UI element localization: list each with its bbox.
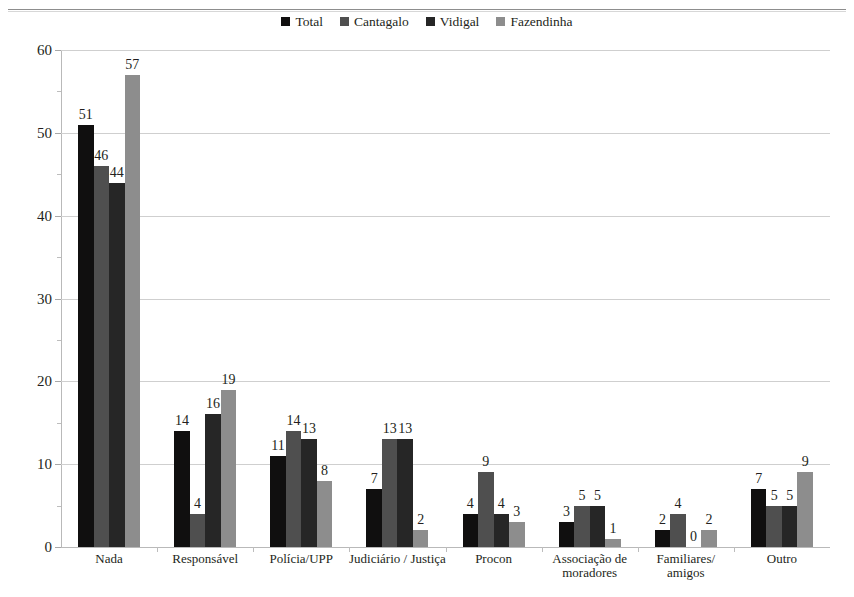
bar-group: 7559: [734, 50, 830, 547]
bar-value-label: 1: [609, 522, 616, 536]
bar-rect: [478, 472, 494, 547]
bar-cluster: 1114138: [270, 50, 332, 547]
legend-swatch-icon: [340, 17, 349, 26]
bar-rect: [317, 481, 333, 547]
bar-cantagalo: 13: [382, 50, 398, 547]
chart-legend: TotalCantagaloVidigalFazendinha: [0, 15, 854, 29]
bar-cantagalo: 4: [190, 50, 206, 547]
bar-value-label: 0: [690, 530, 697, 544]
bar-rect: [413, 530, 429, 547]
bar-fazendinha: 2: [413, 50, 429, 547]
legend-label: Fazendinha: [510, 15, 572, 29]
bar-value-label: 13: [302, 422, 316, 436]
bar-group: 4943: [446, 50, 542, 547]
bar-value-label: 5: [578, 489, 585, 503]
bar-value-label: 51: [79, 108, 93, 122]
bar-rect: [397, 439, 413, 547]
bar-fazendinha: 8: [317, 50, 333, 547]
y-axis-labels: 6050403020100: [0, 50, 52, 548]
bar-cluster: 7559: [751, 50, 813, 547]
bar-rect: [382, 439, 398, 547]
legend-label: Vidigal: [440, 15, 480, 29]
y-tick-label: 40: [6, 209, 52, 224]
bar-group: 713132: [349, 50, 445, 547]
bar-groups: 5146445714416191114138713132494335512402…: [61, 50, 830, 547]
bar-rect: [174, 431, 190, 547]
bar-group: 1114138: [253, 50, 349, 547]
bar-total: 7: [366, 50, 382, 547]
bar-value-label: 5: [786, 489, 793, 503]
bar-value-label: 4: [498, 497, 505, 511]
y-tick-label: 20: [6, 374, 52, 389]
legend-swatch-icon: [281, 17, 290, 26]
bar-vidigal: 13: [301, 50, 317, 547]
bar-chart: TotalCantagaloVidigalFazendinha 60504030…: [0, 0, 854, 597]
bar-cluster: 3551: [559, 50, 621, 547]
bar-cantagalo: 9: [478, 50, 494, 547]
bar-value-label: 8: [321, 464, 328, 478]
bar-total: 3: [559, 50, 575, 547]
bar-fazendinha: 19: [221, 50, 237, 547]
bar-value-label: 57: [125, 58, 139, 72]
bar-rect: [494, 514, 510, 547]
bar-total: 2: [655, 50, 671, 547]
bar-value-label: 2: [706, 513, 713, 527]
bar-vidigal: 44: [109, 50, 125, 547]
bar-vidigal: 0: [686, 50, 702, 547]
bar-rect: [766, 506, 782, 547]
x-axis-labels: NadaResponsávelPolícia/UPPJudiciário / J…: [61, 552, 830, 594]
x-axis-category-line: amigos: [614, 566, 758, 580]
bar-value-label: 5: [771, 489, 778, 503]
y-tick-major: [55, 547, 61, 548]
bar-value-label: 9: [482, 455, 489, 469]
bar-vidigal: 5: [590, 50, 606, 547]
bar-value-label: 14: [287, 414, 301, 428]
bar-fazendinha: 3: [509, 50, 525, 547]
bar-cantagalo: 4: [670, 50, 686, 547]
bar-vidigal: 5: [782, 50, 798, 547]
bar-rect: [797, 472, 813, 547]
legend-item-fazendinha: Fazendinha: [496, 15, 572, 29]
bar-cantagalo: 5: [574, 50, 590, 547]
bar-rect: [109, 183, 125, 547]
bar-rect: [366, 489, 382, 547]
legend-item-cantagalo: Cantagalo: [340, 15, 409, 29]
bar-rect: [94, 166, 110, 547]
bar-total: 14: [174, 50, 190, 547]
bar-value-label: 46: [94, 149, 108, 163]
bar-total: 51: [78, 50, 94, 547]
bar-rect: [670, 514, 686, 547]
bar-group: 1441619: [157, 50, 253, 547]
bar-value-label: 4: [194, 497, 201, 511]
bar-rect: [559, 522, 575, 547]
legend-label: Cantagalo: [354, 15, 409, 29]
bar-cantagalo: 5: [766, 50, 782, 547]
bar-cluster: 4943: [463, 50, 525, 547]
bar-group: 3551: [542, 50, 638, 547]
legend-item-vidigal: Vidigal: [426, 15, 480, 29]
y-tick-label: 30: [6, 292, 52, 307]
bar-vidigal: 13: [397, 50, 413, 547]
bar-fazendinha: 57: [125, 50, 141, 547]
bar-rect: [590, 506, 606, 547]
bar-value-label: 13: [383, 422, 397, 436]
bar-vidigal: 16: [205, 50, 221, 547]
legend-swatch-icon: [496, 17, 505, 26]
bar-rect: [509, 522, 525, 547]
top-divider: [8, 9, 846, 10]
bar-total: 4: [463, 50, 479, 547]
bar-value-label: 4: [675, 497, 682, 511]
bar-rect: [605, 539, 621, 547]
bar-vidigal: 4: [494, 50, 510, 547]
legend-item-total: Total: [281, 15, 323, 29]
bar-rect: [782, 506, 798, 547]
bar-cluster: 51464457: [78, 50, 140, 547]
bar-rect: [701, 530, 717, 547]
bar-value-label: 11: [271, 439, 284, 453]
bar-cluster: 2402: [655, 50, 717, 547]
bar-value-label: 44: [110, 166, 124, 180]
bar-value-label: 3: [513, 505, 520, 519]
top-divider-shadow: [8, 11, 846, 12]
x-axis-category-line: Outro: [710, 552, 854, 566]
bar-value-label: 4: [467, 497, 474, 511]
